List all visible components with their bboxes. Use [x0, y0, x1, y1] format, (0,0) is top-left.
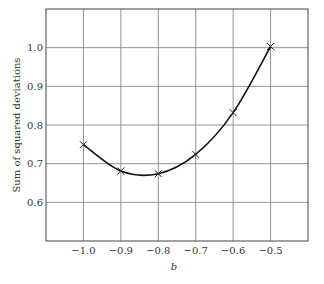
y-tick-label: 0.9 — [27, 81, 43, 92]
y-axis-label: Sum of squared deviations — [11, 57, 22, 192]
x-tick-labels: −1.0−0.9−0.8−0.7−0.6−0.5 — [71, 245, 282, 256]
x-tick-label: −0.6 — [221, 245, 245, 256]
x-tick-label: −1.0 — [71, 245, 95, 256]
chart: −1.0−0.9−0.8−0.7−0.6−0.5 0.60.70.80.91.0… — [0, 0, 324, 284]
y-tick-labels: 0.60.70.80.91.0 — [27, 42, 43, 208]
x-tick-label: −0.9 — [109, 245, 133, 256]
data-curve — [83, 47, 270, 176]
x-tick-label: −0.5 — [258, 245, 282, 256]
y-tick-label: 1.0 — [27, 42, 43, 53]
x-tick-label: −0.8 — [146, 245, 170, 256]
x-tick-label: −0.7 — [184, 245, 208, 256]
x-axis-label: b — [171, 261, 177, 272]
grid-lines — [46, 9, 308, 241]
y-tick-label: 0.8 — [27, 120, 43, 131]
y-tick-label: 0.6 — [27, 197, 43, 208]
data-markers — [80, 43, 274, 177]
y-tick-label: 0.7 — [27, 158, 43, 169]
